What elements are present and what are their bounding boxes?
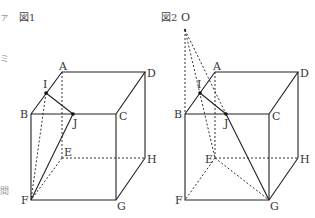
label-O: O	[181, 11, 190, 24]
label-G: G	[270, 200, 279, 213]
point-J	[224, 112, 228, 116]
margin-mark: ァ	[0, 12, 9, 22]
point-I	[44, 91, 48, 95]
label-J: J	[72, 117, 77, 130]
label-C: C	[119, 110, 127, 123]
label-A: A	[58, 60, 68, 73]
label-H: H	[147, 153, 157, 166]
point-I	[198, 91, 202, 95]
label-I: I	[197, 78, 201, 91]
figure-2-caption: 図2	[161, 12, 177, 23]
label-A: A	[212, 60, 222, 73]
label-F: F	[175, 194, 183, 207]
edge-HG	[269, 158, 298, 200]
figure-2: 図2 O A D B C I J E H F G	[161, 11, 310, 213]
label-E: E	[205, 153, 213, 166]
label-F: F	[21, 194, 29, 207]
cube-diagrams: ァ ミ 間 図1 A D B C I J E H F G 図2 O	[0, 0, 315, 218]
margin-mark: 間	[0, 186, 9, 196]
label-C: C	[272, 110, 280, 123]
label-B: B	[174, 108, 182, 121]
figure-1-caption: 図1	[19, 12, 35, 23]
label-B: B	[20, 108, 28, 121]
segment-IJ	[46, 93, 73, 114]
label-D: D	[300, 67, 309, 80]
margin-mark: ミ	[0, 54, 9, 64]
cube-front-top	[31, 72, 145, 200]
label-E: E	[64, 146, 72, 159]
cube-front-top	[185, 72, 298, 200]
label-D: D	[147, 67, 156, 80]
margin-fragments: ァ ミ 間	[0, 12, 9, 196]
segment-JG	[226, 114, 269, 200]
segment-EG	[215, 158, 269, 200]
label-G: G	[117, 200, 126, 213]
point-J	[71, 112, 75, 116]
label-I: I	[43, 78, 47, 91]
figure-1: 図1 A D B C I J E H F G	[19, 12, 157, 213]
label-J: J	[223, 117, 228, 130]
segment-IJ	[200, 93, 226, 114]
edge-HG	[116, 158, 145, 200]
label-H: H	[300, 153, 310, 166]
